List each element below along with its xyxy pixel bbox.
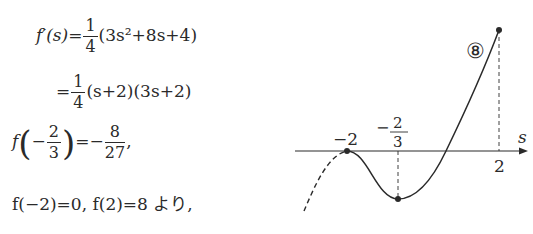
tick-label-2: 2 bbox=[494, 156, 505, 176]
axis-arrow-icon bbox=[519, 148, 528, 155]
axis-label-s: s bbox=[518, 127, 527, 147]
point-local-min bbox=[395, 196, 401, 202]
tick-label-frac-num: 2 bbox=[393, 114, 403, 132]
point-s-2 bbox=[496, 27, 502, 33]
tick-label-minus-2: −2 bbox=[333, 129, 358, 149]
function-graph: s −2 − 2 3 2 ⑧ bbox=[0, 0, 533, 234]
tick-label-frac-den: 3 bbox=[393, 133, 403, 151]
tick-label-minus-sign: − bbox=[376, 118, 389, 137]
curve-dashed-extension bbox=[304, 151, 347, 211]
circled-label-8: ⑧ bbox=[466, 39, 485, 63]
